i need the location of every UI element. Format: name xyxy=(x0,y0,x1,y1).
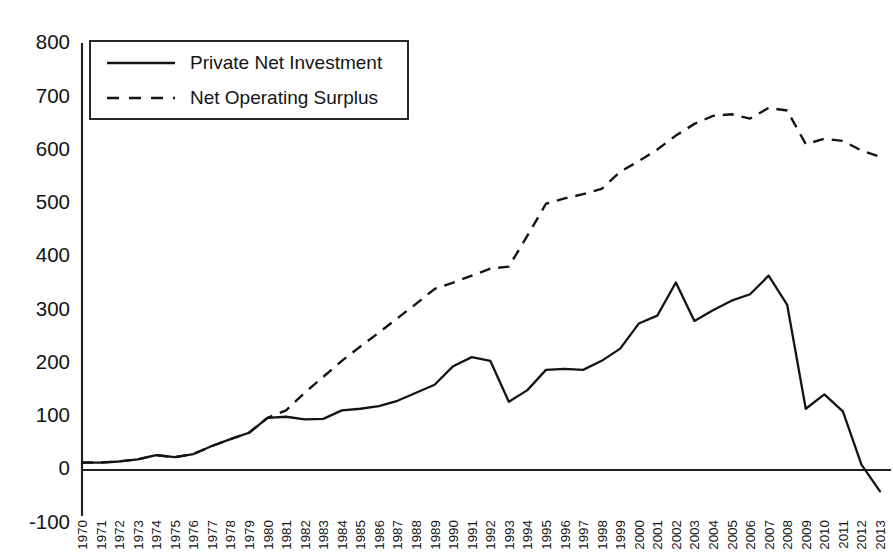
x-axis-tick-label: 1987 xyxy=(390,520,405,550)
y-axis-tick-label: 200 xyxy=(36,350,70,373)
x-axis-tick-label: 2001 xyxy=(650,520,665,550)
y-axis-tick-label: 0 xyxy=(59,456,70,479)
x-axis-tick-label: 2008 xyxy=(780,520,795,550)
chart-legend: Private Net InvestmentNet Operating Surp… xyxy=(90,41,408,119)
y-axis-tick-label: 600 xyxy=(36,137,70,160)
x-axis-tick-label: 1971 xyxy=(94,520,109,550)
x-axis-tick-label: 2013 xyxy=(873,520,888,550)
x-axis-tick-label: 1992 xyxy=(483,520,498,550)
x-axis-tick-label: 1989 xyxy=(428,520,443,550)
x-axis-tick-label: 1985 xyxy=(353,520,368,550)
x-axis-tick-label: 1988 xyxy=(409,520,424,550)
y-axis-tick-label: 100 xyxy=(36,403,70,426)
y-axis-tick-label: 500 xyxy=(36,190,70,213)
x-axis-tick-label: 1980 xyxy=(261,520,276,550)
x-axis-tick-label: 2006 xyxy=(743,520,758,550)
line-chart: 8007006005004003002001000-100 1970197119… xyxy=(0,0,893,558)
x-axis-tick-label: 1979 xyxy=(242,520,257,550)
x-axis-tick-label: 2005 xyxy=(725,520,740,550)
x-axis-tick-label: 2012 xyxy=(854,520,869,550)
x-axis-tick-label: 2000 xyxy=(632,520,647,550)
x-axis-tick-label: 2004 xyxy=(706,519,721,549)
x-axis-tick-label: 1982 xyxy=(298,520,313,550)
x-axis-tick-label: 1973 xyxy=(131,520,146,550)
x-axis-tick-label: 1990 xyxy=(446,520,461,550)
x-axis-tick-label: 1983 xyxy=(316,520,331,550)
x-axis-tick-label: 1993 xyxy=(502,520,517,550)
y-axis-tick-label: -100 xyxy=(29,510,70,533)
series-line-private-net-investment xyxy=(82,276,880,492)
x-axis-tick-label: 1978 xyxy=(223,520,238,550)
y-axis-tick-label: 800 xyxy=(36,30,70,53)
x-axis-tick-label: 1984 xyxy=(335,519,350,549)
x-axis-tick-label: 2010 xyxy=(817,520,832,550)
x-axis-tick-label: 2002 xyxy=(669,520,684,550)
x-axis-tick-label: 1972 xyxy=(112,520,127,550)
y-axis-tick-label: 300 xyxy=(36,297,70,320)
x-axis-tick-label: 1981 xyxy=(279,520,294,550)
y-axis-tick-label: 700 xyxy=(36,84,70,107)
y-axis-tick-labels: 8007006005004003002001000-100 xyxy=(29,30,70,532)
x-axis-tick-label: 1991 xyxy=(465,520,480,550)
legend-label-2: Net Operating Surplus xyxy=(190,87,378,108)
x-axis-tick-label: 2011 xyxy=(836,520,851,549)
chart-container: 8007006005004003002001000-100 1970197119… xyxy=(0,0,893,558)
x-axis-tick-label: 1975 xyxy=(168,520,183,550)
x-axis-tick-label: 1999 xyxy=(613,520,628,550)
x-axis-tick-label: 1995 xyxy=(539,520,554,550)
x-axis-tick-labels: 1970197119721973197419751976197719781979… xyxy=(75,519,888,549)
x-axis-tick-label: 2003 xyxy=(687,520,702,550)
x-axis-tick-label: 2007 xyxy=(762,520,777,550)
x-axis-tick-label: 1977 xyxy=(205,520,220,550)
x-axis-tick-label: 1998 xyxy=(595,520,610,550)
legend-label-1: Private Net Investment xyxy=(190,52,383,73)
x-axis-tick-label: 1986 xyxy=(372,520,387,550)
x-axis-tick-label: 1994 xyxy=(520,519,535,549)
x-axis-tick-label: 2009 xyxy=(799,520,814,550)
y-axis-tick-label: 400 xyxy=(36,243,70,266)
x-axis-tick-label: 1997 xyxy=(576,520,591,550)
x-axis-tick-label: 1976 xyxy=(186,520,201,550)
x-axis-tick-label: 1974 xyxy=(149,519,164,549)
x-axis-tick-label: 1996 xyxy=(558,520,573,550)
x-axis-tick-label: 1970 xyxy=(75,520,90,550)
